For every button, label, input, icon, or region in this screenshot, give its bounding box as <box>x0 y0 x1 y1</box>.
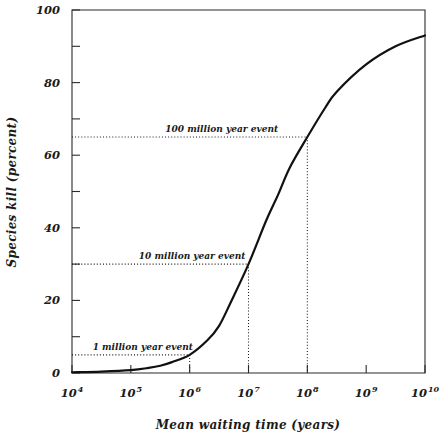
y-tick-label: 20 <box>43 293 60 307</box>
x-tick-label: 104 <box>61 384 84 400</box>
x-tick-label: 109 <box>355 384 378 400</box>
y-axis-title: Species kill (percent) <box>5 117 19 268</box>
x-tick-label: 106 <box>178 384 201 400</box>
y-tick-label: 40 <box>44 221 60 235</box>
y-tick-label: 100 <box>36 3 60 17</box>
x-tick-label: 105 <box>120 384 143 400</box>
x-axis-tick-labels: 1041051061071081091010 <box>61 384 440 400</box>
y-tick-label: 80 <box>44 76 60 90</box>
annotation-label: 10 million year event <box>139 251 246 261</box>
data-curve-group <box>72 35 425 372</box>
y-tick-label: 60 <box>44 148 60 162</box>
x-tick-label: 108 <box>296 384 319 400</box>
y-tick-label: 0 <box>52 366 60 380</box>
annotation-label: 1 million year event <box>93 342 194 352</box>
x-axis-title: Mean waiting time (years) <box>155 418 341 432</box>
x-tick-label: 1010 <box>411 384 440 400</box>
annotation-labels: 100 million year event10 million year ev… <box>93 124 279 352</box>
x-tick-label: 107 <box>237 384 260 400</box>
annotation-label: 100 million year event <box>165 124 279 134</box>
x-axis-ticks <box>72 365 425 373</box>
species-kill-curve <box>72 35 425 372</box>
species-kill-chart: 020406080100 1041051061071081091010 100 … <box>0 0 444 439</box>
plot-frame <box>72 10 425 373</box>
y-axis-ticks <box>72 10 80 373</box>
y-axis-tick-labels: 020406080100 <box>36 3 60 380</box>
chart-figure: 020406080100 1041051061071081091010 100 … <box>0 0 444 439</box>
